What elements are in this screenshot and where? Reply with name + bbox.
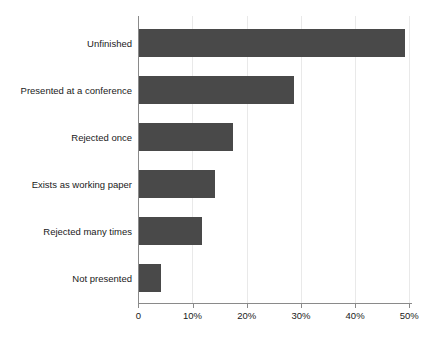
bar-presented-at-a-conference bbox=[139, 76, 294, 104]
x-tick-label-50: 50% bbox=[400, 310, 419, 321]
gridline-20 bbox=[247, 16, 248, 303]
x-tick-40 bbox=[355, 303, 356, 308]
bar-row-presented-at-a-conference bbox=[139, 76, 413, 104]
x-tick-label-0: 0 bbox=[136, 310, 141, 321]
bar-unfinished bbox=[139, 29, 405, 57]
plot-area bbox=[138, 16, 412, 303]
y-axis-label-not-presented: Not presented bbox=[72, 273, 132, 284]
gridline-40 bbox=[355, 16, 356, 303]
gridline-30 bbox=[301, 16, 302, 303]
bar-rejected-once bbox=[139, 123, 232, 151]
bar-rejected-many-times bbox=[139, 217, 201, 245]
x-tick-0 bbox=[138, 303, 139, 308]
x-tick-20 bbox=[247, 303, 248, 308]
y-axis-label-unfinished: Unfinished bbox=[87, 38, 132, 49]
x-tick-label-10: 10% bbox=[183, 310, 202, 321]
y-axis-line bbox=[138, 16, 139, 303]
x-tick-label-30: 30% bbox=[291, 310, 310, 321]
gridline-50 bbox=[409, 16, 410, 303]
y-axis-label-rejected-once: Rejected once bbox=[71, 132, 132, 143]
bar-row-not-presented bbox=[139, 264, 413, 292]
bar-exists-as-working-paper bbox=[139, 170, 215, 198]
x-tick-label-40: 40% bbox=[346, 310, 365, 321]
bar-chart: 0 10% 20% 30% 40% 50% Unfinished Present… bbox=[0, 0, 436, 345]
bar-row-rejected-once bbox=[139, 123, 413, 151]
y-label-wrap-2: Rejected once bbox=[0, 123, 132, 151]
y-axis-label-exists-as-working-paper: Exists as working paper bbox=[32, 179, 132, 190]
y-axis-label-rejected-many-times: Rejected many times bbox=[43, 226, 132, 237]
y-label-wrap-3: Exists as working paper bbox=[0, 170, 132, 198]
bar-not-presented bbox=[139, 264, 161, 292]
bar-row-exists-as-working-paper bbox=[139, 170, 413, 198]
bar-row-rejected-many-times bbox=[139, 217, 413, 245]
x-tick-label-20: 20% bbox=[237, 310, 256, 321]
gridline-10 bbox=[192, 16, 193, 303]
y-label-wrap-0: Unfinished bbox=[0, 29, 132, 57]
x-axis-line bbox=[138, 303, 412, 304]
y-label-wrap-5: Not presented bbox=[0, 264, 132, 292]
y-axis-label-presented-at-a-conference: Presented at a conference bbox=[21, 85, 132, 96]
bar-row-unfinished bbox=[139, 29, 413, 57]
x-tick-50 bbox=[409, 303, 410, 308]
x-tick-10 bbox=[193, 303, 194, 308]
y-label-wrap-4: Rejected many times bbox=[0, 217, 132, 245]
x-tick-30 bbox=[301, 303, 302, 308]
y-label-wrap-1: Presented at a conference bbox=[0, 76, 132, 104]
